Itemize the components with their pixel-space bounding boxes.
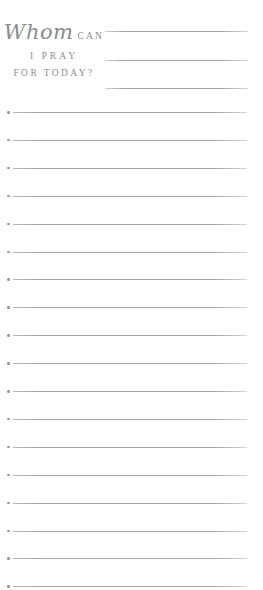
entry-line [13, 391, 247, 392]
bullet-icon [7, 278, 10, 281]
bullet-icon [7, 474, 10, 477]
list-row [0, 168, 263, 169]
entry-line [13, 586, 247, 587]
list-row [0, 531, 263, 532]
entry-line [13, 252, 247, 253]
list-row [0, 447, 263, 448]
title-line-2: I PRAY [0, 51, 108, 61]
bullet-icon [7, 251, 10, 254]
bullet-icon [7, 306, 10, 309]
page-title: Whom CAN I PRAY FOR TODAY? [0, 20, 108, 78]
list-row [0, 391, 263, 392]
list-row [0, 558, 263, 559]
entry-line [13, 503, 247, 504]
title-line-1: Whom CAN [0, 20, 108, 48]
list-row [0, 475, 263, 476]
bullet-icon [7, 195, 10, 198]
bullet-icon [7, 139, 10, 142]
entry-list [0, 112, 263, 590]
list-row [0, 112, 263, 113]
list-row [0, 419, 263, 420]
title-word-can: CAN [78, 31, 105, 41]
entry-line [13, 168, 247, 169]
entry-line [13, 307, 247, 308]
bullet-icon [7, 223, 10, 226]
list-row [0, 586, 263, 587]
header-write-lines [105, 31, 248, 117]
list-row [0, 196, 263, 197]
list-row [0, 279, 263, 280]
entry-line [13, 475, 247, 476]
entry-line [13, 140, 247, 141]
bullet-icon [7, 111, 10, 114]
bullet-icon [7, 585, 10, 588]
list-row [0, 252, 263, 253]
entry-line [13, 558, 247, 559]
title-line-3: FOR TODAY? [0, 68, 108, 78]
header-write-line [105, 88, 248, 89]
bullet-icon [7, 334, 10, 337]
notepad-page: Whom CAN I PRAY FOR TODAY? [0, 0, 263, 590]
list-row [0, 140, 263, 141]
entry-line [13, 363, 247, 364]
header-write-line [105, 60, 248, 61]
list-row [0, 363, 263, 364]
entry-line [13, 531, 247, 532]
bullet-icon [7, 418, 10, 421]
bullet-icon [7, 557, 10, 560]
header-write-line [105, 31, 248, 32]
entry-line [13, 447, 247, 448]
bullet-icon [7, 502, 10, 505]
entry-line [13, 224, 247, 225]
bullet-icon [7, 362, 10, 365]
entry-line [13, 419, 247, 420]
list-row [0, 307, 263, 308]
bullet-icon [7, 167, 10, 170]
list-row [0, 335, 263, 336]
bullet-icon [7, 446, 10, 449]
entry-line [13, 112, 247, 113]
entry-line [13, 279, 247, 280]
title-script-word: Whom [4, 20, 74, 44]
list-row [0, 224, 263, 225]
list-row [0, 503, 263, 504]
bullet-icon [7, 530, 10, 533]
entry-line [13, 335, 247, 336]
bullet-icon [7, 390, 10, 393]
entry-line [13, 196, 247, 197]
